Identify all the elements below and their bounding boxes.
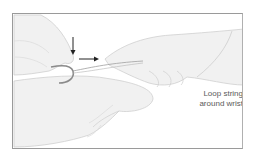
caption: Loop string around wrist: [181, 89, 243, 109]
patient-hand: [14, 76, 153, 147]
caption-line-2: around wrist: [181, 99, 243, 109]
illustration-frame: Loop string around wrist: [12, 13, 243, 149]
caption-line-1: Loop string: [181, 89, 243, 99]
right-hand: [105, 29, 243, 87]
right-arrow: [79, 57, 99, 62]
fishhook-removal-illustration: [13, 14, 243, 149]
